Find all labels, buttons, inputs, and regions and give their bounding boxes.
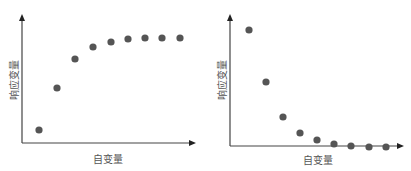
- chart-right-plot: [0, 0, 411, 171]
- data-point: [347, 142, 354, 149]
- data-point: [262, 78, 269, 85]
- data-point: [296, 129, 303, 136]
- y-axis-arrow-icon: [227, 14, 233, 21]
- x-axis-arrow-icon: [397, 143, 404, 149]
- data-point: [330, 140, 337, 147]
- data-point: [279, 113, 286, 120]
- data-point: [313, 136, 320, 143]
- data-point: [382, 143, 389, 150]
- chart-right-decaying: 响应变量 自变量: [0, 0, 411, 171]
- x-axis-label: 自变量: [303, 152, 333, 167]
- data-point: [245, 26, 252, 33]
- data-point: [365, 143, 372, 150]
- y-axis-label: 响应变量: [214, 60, 229, 100]
